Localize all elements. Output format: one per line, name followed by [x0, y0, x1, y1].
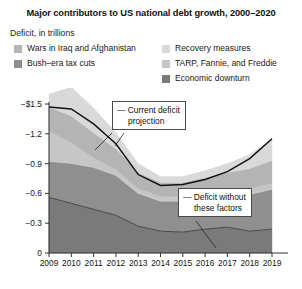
y-axis-ticks: −$1.5−1.2−0.9−0.6−0.30: [21, 99, 49, 258]
x-tick-label: 2017: [218, 258, 237, 268]
legend-label-recovery: Recovery measures: [175, 44, 251, 53]
annotation-without-line2: these factors: [183, 203, 242, 214]
x-tick-label: 2013: [129, 258, 148, 268]
annotation-without-line1: Deficit without: [194, 192, 246, 202]
annotation-current-deficit-projection: — Current deficit projection: [112, 101, 186, 130]
y-tick-label: −0.3: [25, 218, 42, 228]
legend-column-right: Recovery measures TARP, Fannie, and Fred…: [162, 42, 277, 87]
chart-figure: Major contributors to US national debt g…: [0, 0, 302, 289]
legend-item-downturn: Economic downturn: [162, 72, 277, 85]
x-tick-label: 2009: [40, 258, 59, 268]
legend-item-bush-tax-cuts: Bush–era tax cuts: [14, 57, 136, 70]
legend-swatch-wars-icon: [14, 45, 22, 53]
legend-swatch-recovery-icon: [162, 45, 170, 53]
x-tick-label: 2011: [85, 258, 103, 268]
annotation-current-line1: Current deficit: [128, 105, 180, 115]
x-axis-ticks: 2009201020112012201320142015201620172018…: [40, 253, 282, 268]
legend-column-left: Wars in Iraq and Afghanistan Bush–era ta…: [14, 42, 136, 72]
x-tick-label: 2012: [107, 258, 126, 268]
y-tick-label: −0.9: [25, 159, 42, 169]
annotation-dash-without-icon: —: [183, 192, 191, 202]
annotation-dash-current-icon: —: [117, 105, 125, 115]
annotation-deficit-without-these-factors: — Deficit without these factors: [178, 188, 252, 217]
x-tick-label: 2016: [196, 258, 215, 268]
legend-swatch-bush-tax-cuts-icon: [14, 60, 22, 68]
legend-label-tarp: TARP, Fannie, and Freddie: [175, 59, 277, 68]
page-title: Major contributors to US national debt g…: [0, 8, 302, 18]
x-tick-label: 2018: [240, 258, 259, 268]
legend-item-tarp: TARP, Fannie, and Freddie: [162, 57, 277, 70]
legend-label-bush-tax-cuts: Bush–era tax cuts: [27, 59, 95, 68]
axis-caption: Deficit, in trillions: [10, 28, 74, 38]
legend-label-downturn: Economic downturn: [175, 74, 250, 83]
y-tick-label: −$1.5: [21, 99, 43, 109]
x-tick-label: 2014: [151, 258, 170, 268]
legend-swatch-downturn-icon: [162, 75, 170, 83]
chart-legend: Wars in Iraq and Afghanistan Bush–era ta…: [10, 42, 298, 82]
y-tick-label: 0: [37, 248, 42, 258]
x-tick-label: 2015: [173, 258, 192, 268]
legend-item-recovery: Recovery measures: [162, 42, 277, 55]
legend-item-wars: Wars in Iraq and Afghanistan: [14, 42, 136, 55]
y-tick-label: −1.2: [25, 129, 42, 139]
x-tick-label: 2019: [263, 258, 282, 268]
annotation-current-line2: projection: [117, 116, 164, 127]
x-tick-label: 2010: [62, 258, 81, 268]
y-tick-label: −0.6: [25, 188, 42, 198]
legend-label-wars: Wars in Iraq and Afghanistan: [27, 44, 136, 53]
legend-swatch-tarp-icon: [162, 60, 170, 68]
